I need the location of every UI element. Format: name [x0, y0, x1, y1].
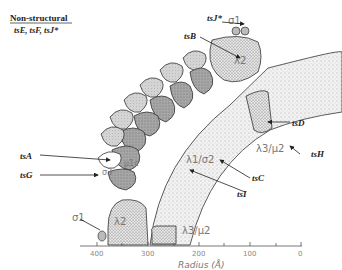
- pointer-tsD: tsD: [292, 118, 305, 128]
- pointer-tsI: tsI: [237, 189, 247, 199]
- axis-label: Radius (Å): [178, 259, 224, 270]
- radius-axis: 400 300 200 100 0 Radius (Å): [80, 242, 302, 270]
- label-sigma1-bottom: σ1: [72, 212, 85, 223]
- reovirus-structure-diagram: Non-structural tsE, tsF, tsJ* σ1 λ2 λ3/μ…: [0, 0, 342, 270]
- legend-heading: Non-structural: [10, 13, 68, 23]
- pointer-tsJ: tsJ*: [207, 13, 223, 23]
- sigma1-top-ball: [232, 27, 240, 35]
- tick-300: 300: [141, 250, 154, 258]
- label-sigma1-top: σ1: [228, 15, 241, 26]
- label-lambda3-mu2-right: λ3/μ2: [256, 143, 284, 154]
- tick-0: 0: [298, 250, 302, 258]
- lambda3-box-bottom: [152, 226, 177, 244]
- pointer-tsA: tsA: [20, 151, 32, 161]
- legend: Non-structural tsE, tsF, tsJ*: [10, 13, 72, 35]
- sigma1-bottom-ball: [98, 231, 106, 241]
- pointer-tsC: tsC: [252, 173, 265, 183]
- label-lambda2-top: λ2: [234, 55, 246, 66]
- sigma1-top-ball: [241, 27, 249, 35]
- tick-400: 400: [90, 250, 103, 258]
- legend-items: tsE, tsF, tsJ*: [14, 25, 59, 35]
- pointer-tsG: tsG: [20, 170, 33, 180]
- label-sigma3: σ3: [102, 168, 112, 177]
- tick-200: 200: [192, 250, 205, 258]
- label-lambda3-mu2-bottom: λ3/μ2: [182, 225, 210, 236]
- pointer-tsH: tsH: [311, 149, 325, 159]
- pointer-tsB: tsB: [184, 31, 196, 41]
- label-lambda1-sigma2: λ1/σ2: [186, 154, 214, 165]
- label-lambda2-bottom: λ2: [114, 216, 126, 227]
- label-mu1c: μ1c: [124, 159, 139, 168]
- tick-100: 100: [243, 250, 256, 258]
